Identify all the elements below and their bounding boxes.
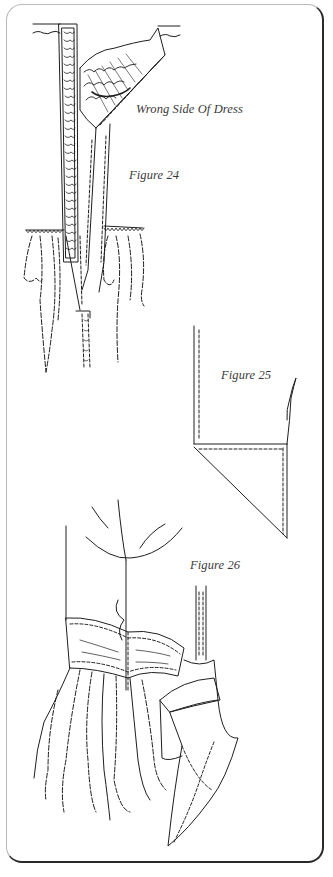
figure-26-label: Figure 26 (190, 558, 240, 573)
figure-24-label: Figure 24 (129, 168, 179, 183)
annotation-wrong-side-of-dress: Wrong Side Of Dress (136, 102, 243, 117)
figure-24-drawing (24, 24, 180, 372)
figure-25-label: Figure 25 (221, 368, 271, 383)
figure-26-drawing (34, 500, 238, 846)
figure-25-drawing (194, 326, 296, 538)
sewing-illustration (0, 0, 333, 877)
